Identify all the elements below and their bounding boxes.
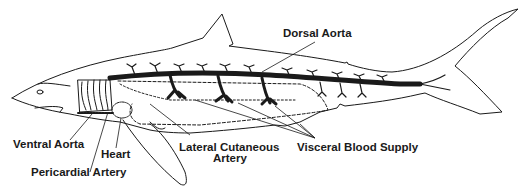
label-dorsal-aorta: Dorsal Aorta <box>283 27 352 39</box>
label-ventral-aorta: Ventral Aorta <box>13 138 84 150</box>
pectoral-fin <box>123 120 186 185</box>
leader-heart <box>116 118 121 148</box>
head-line <box>38 83 70 86</box>
gill-arches <box>81 80 108 110</box>
dorsal-aorta-vessel <box>110 73 420 84</box>
leader-dorsal-aorta <box>262 42 315 72</box>
mouth-line <box>35 107 63 113</box>
label-visceral-blood-supply: Visceral Blood Supply <box>297 141 418 153</box>
body-outline-upper <box>12 9 518 114</box>
leader-ventral-aorta <box>70 114 92 140</box>
leader-visceral-1 <box>195 100 315 138</box>
aortic-branch-2 <box>216 76 232 102</box>
body-cavity-outline <box>118 81 328 125</box>
label-lateral-cutaneous-artery-2: Artery <box>213 152 247 164</box>
shark-circulatory-diagram: Dorsal Aorta Ventral Aorta Heart Pericar… <box>0 0 531 191</box>
leader-lateral-cutaneous <box>150 104 190 135</box>
aortic-branch-1 <box>168 75 185 98</box>
label-heart: Heart <box>101 148 130 160</box>
heart <box>112 102 132 118</box>
eye <box>37 90 43 94</box>
label-pericardial-artery: Pericardial Artery <box>31 166 126 178</box>
shark-illustration <box>0 0 531 191</box>
leader-visceral-3 <box>275 106 315 138</box>
leader-pericardial <box>90 112 108 172</box>
gill-box <box>78 80 112 112</box>
